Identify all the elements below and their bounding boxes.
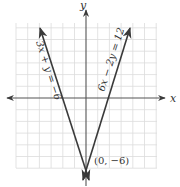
x-axis-label: x — [170, 92, 177, 105]
intersection-point-label: (0, −6) — [94, 155, 129, 166]
coordinate-plane: x y 3x + y = −6 6x − 2y = 12 (0, −6) — [0, 0, 180, 187]
line-2-equation-label: 6x − 2y = 12 — [95, 26, 126, 92]
line-1-equation-label: 3x + y = −6 — [34, 39, 64, 102]
y-axis-label: y — [79, 0, 87, 12]
